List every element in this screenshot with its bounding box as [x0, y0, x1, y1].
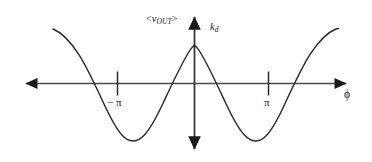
y-axis-label: <vOUT>: [146, 14, 177, 26]
peak-label-subscript: d: [215, 25, 219, 34]
x-tick-label-minus-pi: − π: [107, 97, 122, 108]
peak-amplitude-label: kd: [210, 22, 218, 34]
phase-detector-figure: <vOUT> kd − π π ϕ: [0, 0, 372, 162]
x-tick-label-pi: π: [264, 97, 270, 108]
cosine-curve: [53, 29, 339, 142]
plot-canvas: [0, 0, 372, 162]
x-axis-label: ϕ: [344, 89, 350, 101]
y-axis-label-subscript: OUT: [157, 17, 172, 26]
y-axis-label-close-bracket: >: [172, 13, 178, 24]
